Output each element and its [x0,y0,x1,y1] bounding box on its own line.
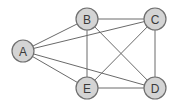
node-a: A [12,40,34,62]
node-c: C [144,8,166,30]
node-b: B [76,8,98,30]
node-label: E [83,82,91,96]
node-e: E [76,77,98,99]
node-label: D [151,82,160,96]
node-label: B [83,13,91,27]
node-label: C [151,13,160,27]
node-label: A [19,45,27,59]
graph-diagram: ABCED [0,0,176,108]
node-d: D [144,77,166,99]
